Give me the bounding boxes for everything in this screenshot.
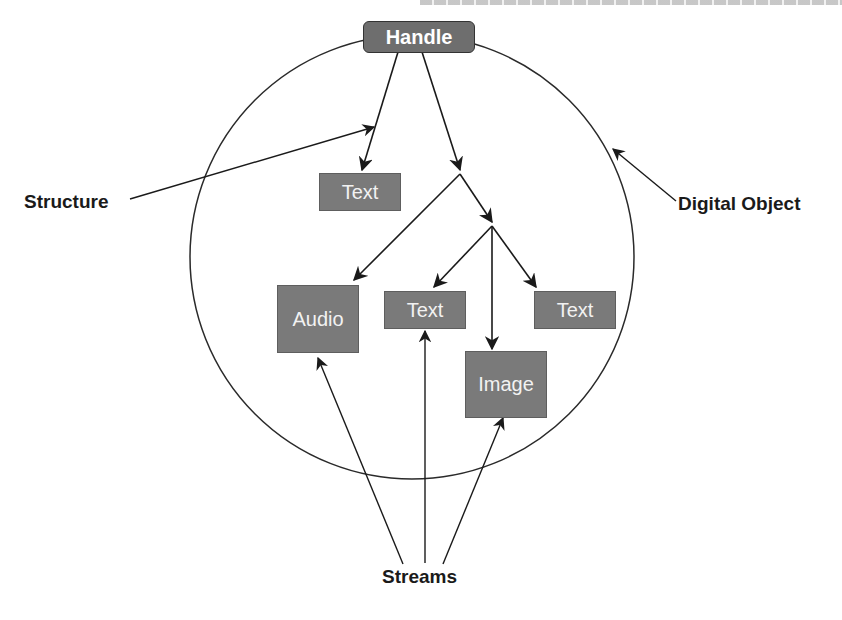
streams-label: Streams: [382, 566, 457, 588]
digital-object-label: Digital Object: [678, 193, 800, 215]
text-node-1-label: Text: [342, 181, 379, 204]
text-node-2: Text: [384, 291, 466, 329]
text-node-3: Text: [534, 291, 616, 329]
image-node-label: Image: [478, 373, 534, 396]
handle-node: Handle: [363, 21, 475, 53]
audio-node-label: Audio: [292, 308, 343, 331]
handle-label: Handle: [386, 26, 453, 49]
text-node-3-label: Text: [557, 299, 594, 322]
annotation-pointers: [130, 127, 676, 564]
text-node-1: Text: [319, 173, 401, 211]
image-node: Image: [465, 351, 547, 418]
text-node-2-label: Text: [407, 299, 444, 322]
digital-object-circle: [190, 35, 634, 479]
audio-node: Audio: [277, 285, 359, 353]
structure-label: Structure: [24, 191, 108, 213]
